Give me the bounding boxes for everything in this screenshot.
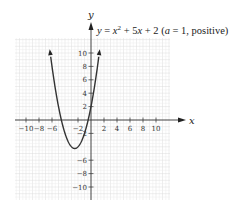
y-tick-label: 6 <box>83 76 88 84</box>
x-axis-label: x <box>189 115 195 126</box>
y-axis-label: y <box>87 9 94 20</box>
x-tick-label: 10 <box>152 125 161 133</box>
y-tick-label: 2 <box>83 103 87 111</box>
y-tick-label: 10 <box>78 50 87 58</box>
y-tick-label: 8 <box>83 63 87 71</box>
x-tick-label: 6 <box>128 125 133 133</box>
x-tick-label: 2 <box>102 125 106 133</box>
x-tick-label: −6 <box>47 125 58 133</box>
x-tick-label: 4 <box>115 125 120 133</box>
x-tick-label: −8 <box>34 125 44 133</box>
grid <box>15 38 170 200</box>
parabola-chart: −10−8−6−2246810108642−2−6−8−10 y x y = x… <box>0 0 251 210</box>
y-tick-label: −8 <box>77 170 87 178</box>
y-tick-label: −10 <box>72 184 87 192</box>
equation-title: y = x2 + 5x + 2 (a = 1, positive) <box>96 24 229 37</box>
y-tick-label: −6 <box>77 157 88 165</box>
x-tick-label: 8 <box>141 125 145 133</box>
y-tick-label: 4 <box>83 90 88 98</box>
x-tick-label: −10 <box>19 125 34 133</box>
